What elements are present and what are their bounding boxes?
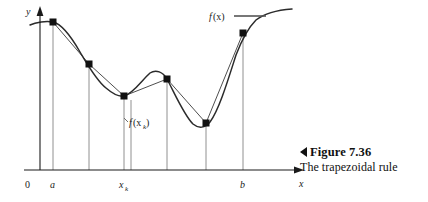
tick-label-a: a bbox=[50, 179, 55, 190]
function-curve bbox=[30, 9, 292, 127]
ordinate-label-group: f (x k ) bbox=[124, 117, 149, 131]
ordinate-label-arg-close: ) bbox=[146, 117, 149, 129]
y-axis bbox=[37, 6, 44, 170]
caption-title-row: Figure 7.36 bbox=[300, 146, 428, 159]
x-axis-label: x bbox=[298, 178, 304, 189]
ordinate-lines bbox=[53, 22, 243, 170]
data-point-xk bbox=[121, 93, 128, 100]
trapezoid-chords bbox=[53, 22, 243, 123]
tick-label-xk-base: x bbox=[118, 179, 124, 190]
caption-title: Figure 7.36 bbox=[310, 146, 371, 159]
figure-caption: Figure 7.36 The trapezoidal rule bbox=[300, 146, 428, 175]
curve-label-group: f (x) bbox=[209, 11, 266, 23]
tick-label-xk: x k bbox=[118, 179, 129, 193]
data-point-a bbox=[50, 19, 57, 26]
origin-label: 0 bbox=[25, 179, 30, 190]
ordinate-label-arg-open: (x bbox=[133, 117, 141, 129]
caption-subtitle: The trapezoidal rule bbox=[300, 160, 428, 175]
data-point-x3 bbox=[164, 76, 171, 83]
y-axis-label: y bbox=[25, 6, 31, 17]
data-point-x1 bbox=[86, 61, 93, 68]
left-triangle-icon bbox=[300, 147, 307, 157]
tick-label-xk-subscript: k bbox=[125, 185, 129, 193]
tick-label-b: b bbox=[240, 179, 245, 190]
data-point-b bbox=[240, 30, 247, 37]
data-point-x4 bbox=[203, 120, 210, 127]
y-axis-arrowhead bbox=[37, 6, 44, 16]
curve-label-arg: (x) bbox=[213, 11, 225, 23]
x-axis bbox=[24, 167, 304, 174]
figure-page: y x 0 a x k b f (x) f (x k ) Figure 7.36 bbox=[0, 0, 428, 202]
ordinate-label-bracket bbox=[124, 118, 128, 122]
